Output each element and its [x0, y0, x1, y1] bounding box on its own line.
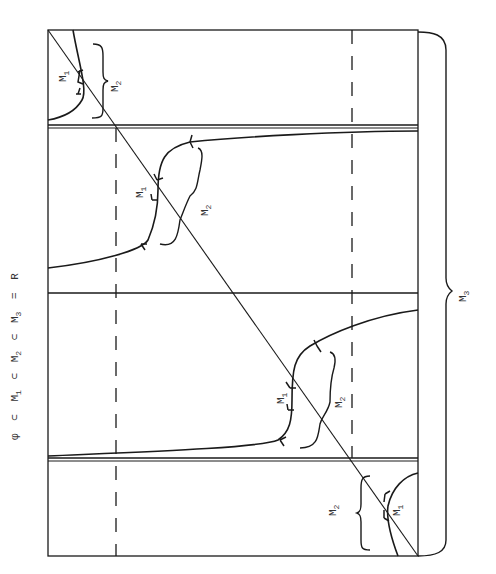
brace-lower-m2 [300, 352, 335, 448]
label-bottom-m1: M1 [391, 504, 405, 516]
curve-lower [48, 310, 418, 456]
label-bottom-m2: M2 [327, 504, 341, 516]
brace-bottom-m2 [357, 476, 370, 550]
label-upper-m1: M1 [134, 186, 148, 198]
label-top-m1: M1 [57, 70, 71, 82]
brace-outer-m3 [418, 32, 452, 556]
brace-top-m2 [92, 44, 108, 118]
label-top-m2: M2 [109, 80, 123, 92]
label-lower-m1: M1 [275, 392, 289, 404]
nested-sets-diagram: φ ⊂ M1 ⊂ M2 ⊂ M3 = R [0, 0, 496, 574]
caption: φ ⊂ M1 ⊂ M2 ⊂ M3 = R [9, 273, 24, 440]
braces [92, 32, 452, 556]
label-outer-m3: M3 [457, 290, 471, 302]
svg-text:φ ⊂ M1 ⊂: φ ⊂ M1 ⊂ M2 ⊂ M3 = R [9, 273, 24, 440]
brace-upper-m2 [160, 148, 202, 245]
label-upper-m2: M2 [199, 204, 213, 216]
curve-upper [48, 131, 418, 268]
label-lower-m2: M2 [333, 396, 347, 408]
